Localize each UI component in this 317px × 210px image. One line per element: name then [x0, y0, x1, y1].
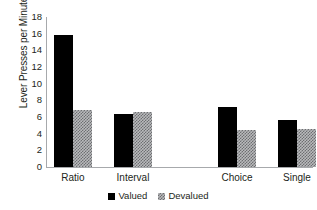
legend-item-valued: Valued	[108, 191, 147, 201]
y-axis-tick-16: 16	[22, 29, 42, 39]
bar-choice-valued	[218, 107, 237, 167]
x-axis-label-choice: Choice	[204, 172, 270, 184]
legend-swatch-icon-devalued	[158, 193, 165, 200]
bar-choice-devalued	[237, 130, 256, 168]
bar-ratio-devalued	[73, 110, 92, 168]
y-axis-tick-labels: 181614121086420	[22, 0, 42, 210]
y-axis-tick-4: 4	[22, 129, 42, 139]
bar-interval-valued	[114, 114, 133, 167]
y-axis-tick-8: 8	[22, 95, 42, 105]
chart-legend: ValuedDevalued	[0, 191, 317, 201]
plot-area	[46, 17, 313, 168]
y-axis-tick-12: 12	[22, 62, 42, 72]
y-axis-tick-10: 10	[22, 79, 42, 89]
x-axis-label-single: Single	[264, 172, 317, 184]
y-axis-tick-6: 6	[22, 112, 42, 122]
y-axis-tick-18: 18	[22, 12, 42, 22]
bar-single-valued	[278, 120, 297, 167]
y-axis-tick-0: 0	[22, 162, 42, 172]
x-axis-category-labels: RatioIntervalChoiceSingle	[46, 172, 313, 188]
legend-label-devalued: Devalued	[168, 191, 208, 201]
x-axis-label-interval: Interval	[100, 172, 166, 184]
legend-swatch-icon-valued	[108, 193, 115, 200]
bar-series-container	[46, 17, 313, 167]
legend-item-devalued: Devalued	[158, 191, 208, 201]
legend-label-valued: Valued	[118, 191, 147, 201]
bar-interval-devalued	[133, 112, 152, 167]
y-axis-tick-2: 2	[22, 145, 42, 155]
bar-ratio-valued	[54, 35, 73, 167]
x-axis-line	[46, 167, 313, 168]
y-axis-tick-14: 14	[22, 45, 42, 55]
bar-single-devalued	[297, 129, 316, 167]
x-axis-label-ratio: Ratio	[40, 172, 106, 184]
bar-chart-figure: Lever Presses per Minute 181614121086420…	[0, 0, 317, 210]
